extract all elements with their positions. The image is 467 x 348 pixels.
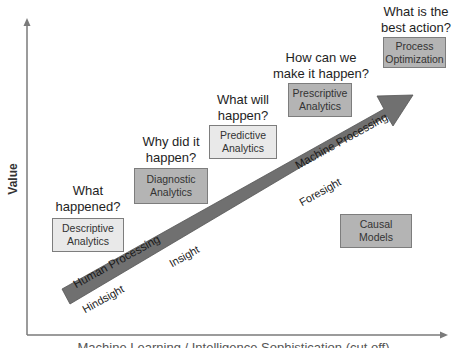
question-line: What will xyxy=(205,92,281,108)
x-axis-label: Machine Learning / Intelligence Sophisti… xyxy=(0,340,467,348)
box-line: Analytics xyxy=(220,142,266,155)
question-line: How can we xyxy=(272,50,370,66)
question-line: happen? xyxy=(128,150,214,166)
box-line: Prescriptive xyxy=(293,87,348,100)
box-line: Analytics xyxy=(293,100,348,113)
question-line: happen? xyxy=(205,108,281,124)
box-line: Causal xyxy=(359,218,393,231)
box-line: Analytics xyxy=(146,186,195,199)
box-diagnostic-analytics: Diagnostic Analytics xyxy=(134,168,208,204)
box-predictive-analytics: Predictive Analytics xyxy=(209,125,277,159)
box-line: Optimization xyxy=(385,53,443,66)
box-line: Analytics xyxy=(62,235,114,248)
question-line: make it happen? xyxy=(272,66,370,82)
y-axis xyxy=(24,18,31,335)
question-predictive: What will happen? xyxy=(205,92,281,124)
question-line: Why did it xyxy=(128,134,214,150)
box-prescriptive-analytics: Prescriptive Analytics xyxy=(288,83,352,117)
question-line: best action? xyxy=(376,20,456,36)
box-line: Models xyxy=(359,231,393,244)
box-line: Diagnostic xyxy=(146,173,195,186)
box-process-optimization: Process Optimization xyxy=(383,37,446,68)
question-line: What xyxy=(52,183,124,199)
x-axis xyxy=(27,332,448,339)
question-prescriptive: How can we make it happen? xyxy=(272,50,370,82)
box-line: Predictive xyxy=(220,129,266,142)
box-causal-models: Causal Models xyxy=(340,214,412,248)
question-diagnostic: Why did it happen? xyxy=(128,134,214,166)
box-line: Process xyxy=(385,40,443,53)
analytics-diagram: Value What happened? Descriptive Analyti… xyxy=(0,0,467,348)
question-line: What is the xyxy=(376,4,456,20)
box-descriptive-analytics: Descriptive Analytics xyxy=(52,218,124,252)
y-axis-label: Value xyxy=(6,159,20,199)
question-descriptive: What happened? xyxy=(52,183,124,215)
question-line: happened? xyxy=(52,199,124,215)
box-line: Descriptive xyxy=(62,222,114,235)
question-process-optimization: What is the best action? xyxy=(376,4,456,36)
